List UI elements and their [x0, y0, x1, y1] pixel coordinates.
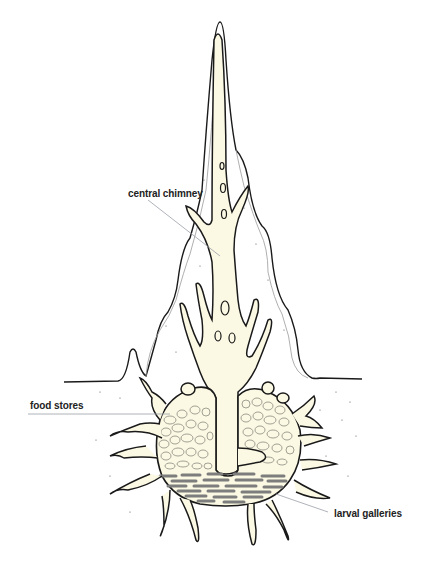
- label-central-chimney: central chimney: [128, 188, 203, 199]
- termite-mound-diagram: [0, 0, 429, 580]
- label-food-stores: food stores: [30, 400, 83, 411]
- label-larval-galleries: larval galleries: [334, 508, 402, 519]
